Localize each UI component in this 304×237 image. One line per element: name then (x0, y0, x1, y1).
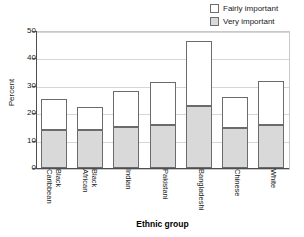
legend-item-fairly-important: Fairly important (210, 3, 302, 14)
bar-segment-fairly-important (77, 107, 103, 129)
x-category-label: White (269, 169, 278, 188)
bar-segment-very-important (77, 130, 103, 168)
y-axis-title: Percent (7, 70, 16, 116)
bar-group (150, 83, 176, 168)
bar-segment-very-important (41, 130, 67, 168)
x-category-black-african: BlackAfrican (77, 169, 103, 215)
legend-swatch-very-important (210, 17, 219, 26)
x-category-label: Pakistani (160, 169, 169, 199)
bar-group (77, 108, 103, 168)
x-category-indian: Indian (113, 169, 139, 215)
bar-segment-very-important (186, 106, 212, 168)
x-category-label: Indian (124, 169, 133, 189)
x-axis-category-labels: BlackCaribbeanBlackAfricanIndianPakistan… (36, 169, 289, 217)
bar-group (222, 98, 248, 168)
x-category-pakistani: Pakistani (150, 169, 176, 215)
bar-segment-fairly-important (113, 91, 139, 127)
x-category-black-caribbean: BlackCaribbean (41, 169, 67, 215)
legend-label-very-important: Very important (223, 17, 275, 26)
bar-group (113, 92, 139, 168)
x-category-label-line1: Black (54, 169, 63, 187)
x-category-label-line2: African (81, 169, 90, 192)
bar-segment-fairly-important (41, 99, 67, 131)
legend-swatch-fairly-important (210, 4, 219, 13)
x-category-label: Bangladeshi (196, 169, 205, 210)
bar-segment-very-important (258, 125, 284, 168)
legend-label-fairly-important: Fairly important (223, 4, 278, 13)
bar-segment-fairly-important (150, 82, 176, 125)
bar-group (186, 42, 212, 168)
x-category-label: Chinese (233, 169, 242, 197)
x-axis-title: Ethnic group (36, 219, 289, 229)
chart-legend: Fairly important Very important (210, 3, 302, 29)
legend-item-very-important: Very important (210, 16, 302, 27)
bar-segment-fairly-important (186, 41, 212, 106)
stacked-bar-chart: Fairly important Very important 01020304… (0, 0, 304, 237)
bar-group (41, 100, 67, 169)
bar-segment-very-important (113, 127, 139, 168)
x-category-white: White (258, 169, 284, 215)
x-category-chinese: Chinese (222, 169, 248, 215)
x-category-bangladeshi: Bangladeshi (186, 169, 212, 215)
bar-segment-very-important (222, 128, 248, 168)
bar-segment-fairly-important (222, 97, 248, 128)
x-category-label-line1: Black (90, 169, 99, 187)
bars-layer (36, 31, 289, 168)
bar-group (258, 82, 284, 168)
bar-segment-very-important (150, 125, 176, 168)
bar-segment-fairly-important (258, 81, 284, 125)
x-category-label-line2: Caribbean (45, 169, 54, 204)
